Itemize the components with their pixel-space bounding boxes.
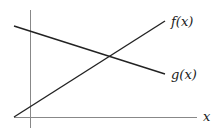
- f-line: [14, 21, 165, 117]
- g-line: [14, 26, 165, 74]
- function-graph: f(x) g(x) x: [0, 0, 220, 138]
- x-axis-label: x: [203, 109, 211, 124]
- g-label: g(x): [171, 67, 197, 82]
- f-label: f(x): [170, 14, 193, 29]
